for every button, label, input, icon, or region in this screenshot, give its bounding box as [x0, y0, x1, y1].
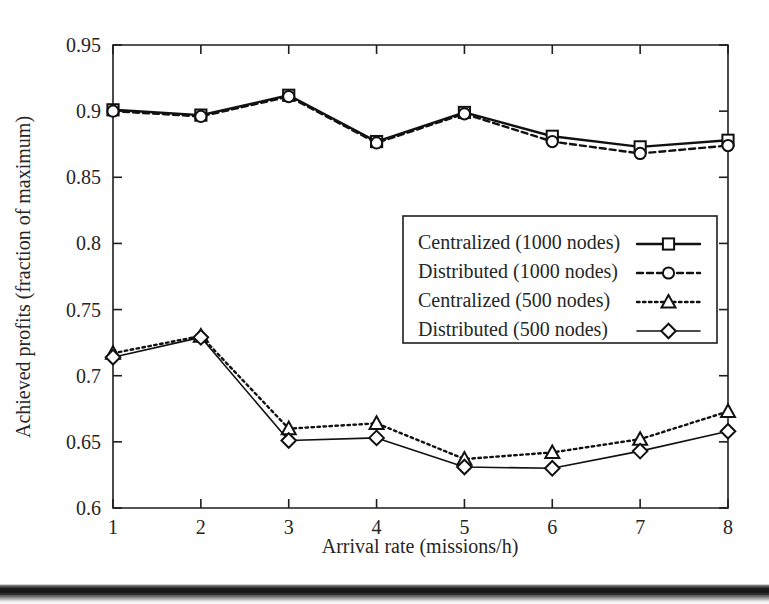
legend-label: Centralized (500 nodes) [418, 289, 610, 312]
legend-label: Distributed (500 nodes) [418, 318, 608, 341]
x-tick-label: 2 [196, 516, 206, 538]
x-tick-label: 8 [723, 516, 733, 538]
y-tick-label: 0.9 [76, 100, 101, 122]
x-tick-label: 1 [108, 516, 118, 538]
y-tick-label: 0.8 [76, 232, 101, 254]
x-tick-label: 6 [547, 516, 557, 538]
circle-marker [107, 106, 118, 117]
y-axis-title: Achieved profits (fraction of maximum) [12, 116, 35, 438]
circle-marker [195, 111, 206, 122]
chart-figure: 0.60.650.70.750.80.850.90.95 12345678 Ar… [0, 0, 769, 604]
x-tick-label: 3 [284, 516, 294, 538]
y-tick-label: 0.75 [66, 299, 101, 321]
circle-marker [663, 267, 674, 278]
y-tick-label: 0.6 [76, 497, 101, 519]
y-tick-label: 0.7 [76, 365, 101, 387]
y-tick-label: 0.65 [66, 431, 101, 453]
circle-marker [547, 136, 558, 147]
square-marker [663, 238, 674, 249]
circle-marker [459, 108, 470, 119]
circle-marker [283, 91, 294, 102]
circle-marker [722, 140, 733, 151]
chart-legend: Centralized (1000 nodes)Distributed (100… [403, 216, 717, 343]
legend-label: Centralized (1000 nodes) [418, 231, 620, 254]
circle-marker [635, 148, 646, 159]
line-chart: 0.60.650.70.750.80.850.90.95 12345678 Ar… [0, 0, 769, 604]
y-tick-label: 0.85 [66, 166, 101, 188]
circle-marker [371, 137, 382, 148]
x-tick-label: 7 [635, 516, 645, 538]
y-tick-label: 0.95 [66, 34, 101, 56]
x-axis-title: Arrival rate (missions/h) [322, 535, 519, 558]
legend-label: Distributed (1000 nodes) [418, 260, 618, 283]
